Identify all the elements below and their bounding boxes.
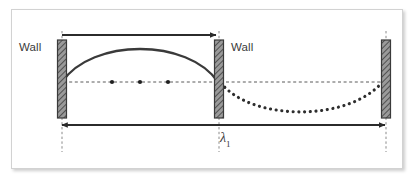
dotted-wave-curve [221,80,384,112]
wavelength-label: λ1 [220,130,231,148]
standing-wave-diagram [0,0,416,183]
wall-label-left: Wall [19,41,41,53]
wall-label-middle: Wall [231,41,253,53]
walls [58,40,391,118]
solid-wave-curve [62,49,218,82]
wall-middle-bar [215,40,224,118]
figure-root: Wall Wall λ1 [0,0,416,183]
node-dot [110,80,114,84]
node-dot [166,80,170,84]
node-dot [138,80,142,84]
wavelength-subscript: 1 [226,139,231,149]
wall-left-bar [58,40,67,118]
wall-right-bar [382,40,391,118]
